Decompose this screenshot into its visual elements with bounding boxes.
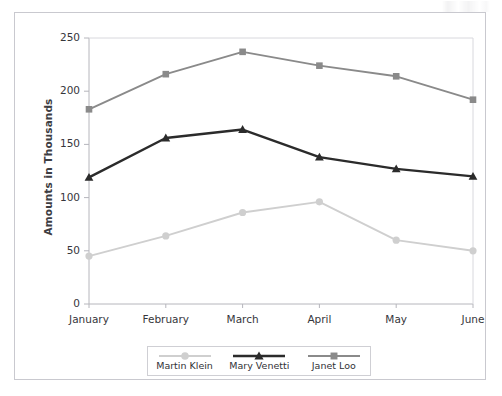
data-point-square — [330, 353, 337, 360]
series-line — [89, 202, 473, 256]
data-point-circle — [162, 232, 169, 239]
series-mary-venetti — [85, 125, 478, 181]
series-line — [89, 130, 473, 178]
data-point-circle — [316, 198, 323, 205]
line-plot — [15, 13, 487, 381]
legend-label: Martin Klein — [156, 360, 213, 371]
data-point-circle — [469, 247, 476, 254]
legend-label: Janet Loo — [312, 360, 356, 371]
data-point-square — [470, 96, 477, 103]
legend-item-martin-klein[interactable]: Martin Klein — [154, 350, 215, 371]
series-line — [89, 52, 473, 109]
data-point-circle — [181, 352, 189, 360]
data-point-square — [393, 73, 400, 80]
series-martin-klein — [85, 198, 476, 259]
legend-marker-square-icon — [306, 350, 362, 360]
data-point-square — [163, 71, 170, 78]
scan-artifact — [442, 1, 490, 12]
data-point-circle — [239, 209, 246, 216]
legend-marker-triangle-icon — [231, 350, 287, 360]
series-janet-loo — [86, 49, 477, 113]
data-point-square — [239, 49, 246, 56]
data-point-square — [86, 106, 93, 113]
legend-label: Mary Venetti — [229, 360, 289, 371]
chart-screenshot: Amounts in Thousands 050100150200250 Jan… — [0, 0, 502, 396]
chart-legend: Martin KleinMary VenettiJanet Loo — [147, 346, 371, 376]
legend-marker-circle-icon — [157, 350, 213, 360]
legend-item-mary-venetti[interactable]: Mary Venetti — [227, 350, 291, 371]
data-point-circle — [85, 253, 92, 260]
data-point-circle — [393, 237, 400, 244]
legend-item-janet-loo[interactable]: Janet Loo — [304, 350, 364, 371]
chart-panel: Amounts in Thousands 050100150200250 Jan… — [14, 12, 486, 380]
data-point-square — [316, 62, 323, 69]
